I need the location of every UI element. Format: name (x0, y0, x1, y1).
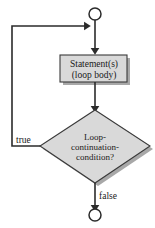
edge-label-false: false (99, 191, 117, 201)
edge-label-true: true (16, 135, 31, 145)
end-terminal-circle (89, 209, 101, 221)
statement-box-line1: Statement(s) (70, 59, 118, 70)
condition-line3: condition? (76, 152, 114, 162)
flowchart-canvas: Statement(s) (loop body) Loop- continuat… (0, 0, 155, 228)
condition-line2: continuation- (71, 142, 119, 152)
start-terminal-circle (89, 8, 101, 20)
loop-flowchart-diagram: Statement(s) (loop body) Loop- continuat… (0, 0, 155, 228)
statement-box-line2: (loop body) (72, 70, 117, 81)
condition-line1: Loop- (84, 132, 106, 142)
